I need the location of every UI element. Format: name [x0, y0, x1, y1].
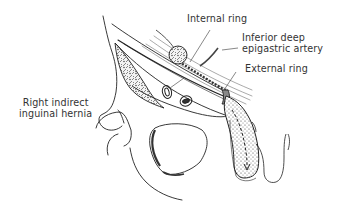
pelvis-outline	[96, 16, 182, 200]
vessels	[161, 85, 193, 108]
label-line: Right indirect	[19, 97, 92, 108]
label-right-indirect-inguinal-hernia: Right indirect inguinal hernia	[19, 97, 92, 119]
label-external-ring: External ring	[245, 63, 308, 74]
hernia-sac	[224, 96, 258, 178]
label-inferior-deep-epigastric-artery: Inferior deep epigastric artery	[242, 32, 323, 54]
label-internal-ring: Internal ring	[187, 13, 247, 24]
internal-ring-mass	[169, 46, 187, 64]
hernia-illustration: Internal ring Inferior deep epigastric a…	[0, 0, 339, 208]
label-line: epigastric artery	[242, 43, 323, 54]
epigastric-artery	[200, 48, 218, 66]
label-line: inguinal hernia	[19, 108, 92, 119]
obturator-foramen	[150, 124, 207, 176]
label-line: Inferior deep	[242, 32, 323, 43]
